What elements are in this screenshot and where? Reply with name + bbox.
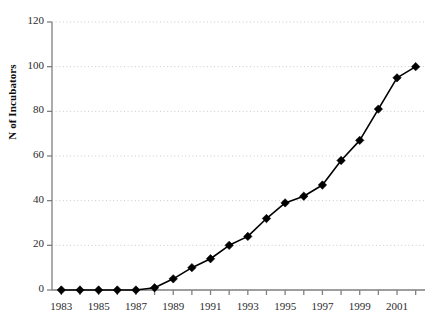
y-tick-label-text: 80 [33,103,44,115]
data-point-marker [300,192,308,200]
x-tick-label: 1999 [340,300,380,312]
x-tick-label: 1983 [41,300,81,312]
data-point-marker [188,263,196,271]
data-point-marker [132,286,140,294]
data-point-marker [411,62,419,70]
data-point-marker [94,286,102,294]
data-markers [57,62,420,294]
gridlines [52,22,425,290]
data-point-marker [169,275,177,283]
x-tick-label: 2001 [377,300,417,312]
data-point-marker [57,286,65,294]
data-point-marker [374,105,382,113]
line-chart: N of Incubators 020406080100120 19831985… [0,0,436,329]
y-axis-title: N of Incubators [6,32,18,172]
y-tick-label-text: 40 [33,193,44,205]
data-point-marker [76,286,84,294]
data-line [61,67,415,290]
x-tick-label: 1987 [116,300,156,312]
y-tick-label-text: 120 [28,14,45,26]
y-tick-label-text: 0 [39,282,45,294]
y-tick-label-text: 100 [28,59,45,71]
x-tick-label: 1989 [153,300,193,312]
y-tick-label-text: 60 [33,148,44,160]
y-axis-ticks [47,22,52,290]
data-point-marker [113,286,121,294]
x-tick-label: 1993 [228,300,268,312]
data-point-marker [150,284,158,292]
x-tick-label: 1985 [79,300,119,312]
x-tick-label: 1995 [265,300,305,312]
y-tick-label-text: 20 [33,237,44,249]
x-tick-label: 1997 [302,300,342,312]
x-tick-label: 1991 [191,300,231,312]
data-point-marker [393,74,401,82]
plot-area [0,0,436,329]
